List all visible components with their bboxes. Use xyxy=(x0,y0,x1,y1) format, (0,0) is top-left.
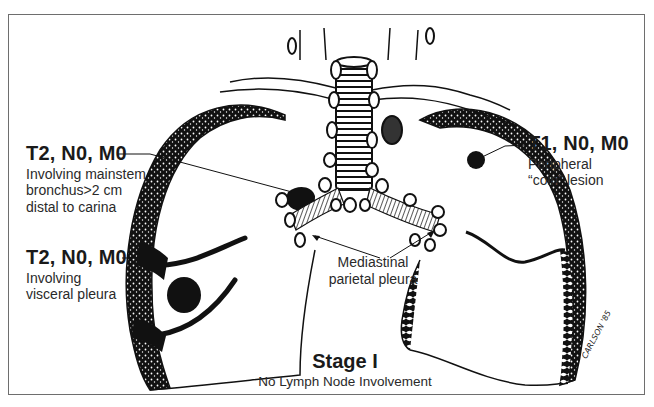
right-lung xyxy=(126,105,315,390)
visceral-stage-code: T2, N0, M0 xyxy=(26,246,127,270)
mainstem-desc-line-2: bronchus>2 cm xyxy=(26,182,146,199)
annotation-peripheral: T1, N0, M0 Peripheral “coin” lesion xyxy=(528,132,629,189)
visceral-pleura-tumor xyxy=(167,277,201,313)
mainstem-desc-line-3: distal to carina xyxy=(26,199,146,216)
visceral-desc-line-2: visceral pleura xyxy=(26,286,127,303)
peripheral-desc-line-1: Peripheral xyxy=(528,156,629,173)
annotation-visceral: T2, N0, M0 Involving visceral pleura xyxy=(26,246,127,303)
peripheral-stage-code: T1, N0, M0 xyxy=(528,132,629,156)
mediastinal-line-1: Mediastinal xyxy=(318,254,428,271)
coin-lesion xyxy=(467,151,485,169)
peripheral-desc-line-2: “coin” lesion xyxy=(528,172,629,189)
caption: Stage I No Lymph Node Involvement xyxy=(250,350,440,390)
mainstem-stage-code: T2, N0, M0 xyxy=(26,142,146,166)
mediastinal-line-2: parietal pleura xyxy=(318,271,428,288)
annotation-mainstem: T2, N0, M0 Involving mainstem bronchus>2… xyxy=(26,142,146,215)
caption-subtitle: No Lymph Node Involvement xyxy=(250,374,440,390)
mainstem-desc-line-1: Involving mainstem xyxy=(26,166,146,183)
caption-title: Stage I xyxy=(250,350,440,374)
annotation-mediastinal: Mediastinal parietal pleura xyxy=(318,254,428,287)
visceral-desc-line-1: Involving xyxy=(26,270,127,287)
